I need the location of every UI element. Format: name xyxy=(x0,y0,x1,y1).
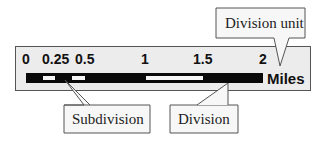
division-unit-label: Division unit xyxy=(225,16,304,31)
subdivision-label: Subdivision xyxy=(72,112,144,127)
scale-bar-diagram: 0 0.25 0.5 1 1.5 2 Miles Division unit S… xyxy=(0,0,327,142)
division-label: Division xyxy=(178,112,230,127)
division-callout xyxy=(197,83,228,105)
